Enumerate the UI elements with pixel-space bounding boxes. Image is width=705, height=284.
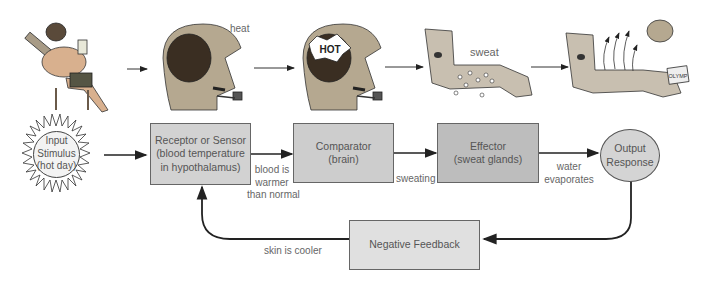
caption-heat: heat [230, 23, 249, 36]
hot-label: HOT [319, 44, 340, 55]
output-line-1: Output [606, 142, 653, 155]
effector-line-2: (sweat glands) [454, 153, 522, 166]
illustration-man-in-chair [18, 18, 118, 113]
negative-feedback-box: Negative Feedback [349, 220, 480, 270]
illustration-head-hot: HOT [295, 18, 390, 113]
negative-feedback-label: Negative Feedback [369, 238, 459, 251]
comparator-line-1: Comparator [316, 140, 371, 153]
comparator-box: Comparator (brain) [293, 123, 394, 183]
receptor-line-1: Receptor or Sensor [155, 134, 246, 147]
illustration-evaporating-arm: OLYMP [563, 15, 703, 105]
output-response-node: Output Response [600, 129, 660, 182]
edge-label-water-evaporates: water evaporates [543, 161, 595, 186]
caption-sweat: sweat [470, 46, 499, 60]
can-label: OLYMP [669, 73, 688, 79]
receptor-sensor-box: Receptor or Sensor (blood temperature in… [150, 123, 251, 185]
receptor-line-2: (blood temperature [155, 147, 246, 160]
edge-label-skin-cooler: skin is cooler [264, 245, 322, 258]
effector-line-1: Effector [454, 140, 522, 153]
edge-label-blood-warmer: blood is warmer than normal [247, 164, 297, 202]
edge-label-sweating: sweating [396, 173, 435, 186]
illustration-sweaty-arm [420, 25, 535, 105]
effector-box: Effector (sweat glands) [437, 123, 539, 183]
comparator-line-2: (brain) [316, 153, 371, 166]
output-line-2: Response [606, 156, 653, 169]
receptor-line-3: in hypothalamus) [155, 161, 246, 174]
input-stimulus-label: Input Stimulus (hot day) [33, 135, 80, 173]
